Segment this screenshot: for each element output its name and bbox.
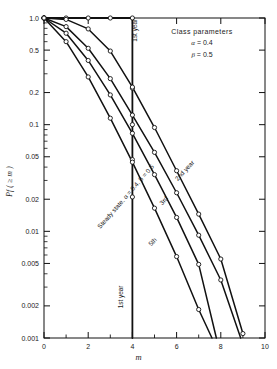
x-tick-label: 10 xyxy=(261,343,269,350)
data-point-marker xyxy=(108,49,112,53)
data-point-marker xyxy=(64,40,68,44)
data-point-marker xyxy=(108,16,112,20)
y-tick-label: 0.1 xyxy=(29,121,39,128)
data-point-marker xyxy=(175,191,179,195)
data-point-marker xyxy=(219,278,223,282)
y-tick-label: 0.02 xyxy=(25,196,39,203)
label-5th: 5th xyxy=(147,236,158,248)
data-point-marker xyxy=(42,16,46,20)
plot-frame xyxy=(44,18,265,338)
data-point-marker xyxy=(108,77,112,81)
y-tick-label: 0.005 xyxy=(21,260,39,267)
x-tick-label: 4 xyxy=(130,343,134,350)
data-point-marker xyxy=(152,125,156,129)
data-point-marker xyxy=(175,215,179,219)
data-point-marker xyxy=(152,150,156,154)
legend-alpha-row: α = 0.4 xyxy=(150,37,270,49)
data-point-marker xyxy=(197,212,201,216)
x-tick-label: 6 xyxy=(175,343,179,350)
alpha-symbol: α xyxy=(191,39,195,47)
data-point-marker xyxy=(130,195,134,199)
x-tick-label: 8 xyxy=(219,343,223,350)
data-point-marker xyxy=(130,131,134,135)
data-point-marker xyxy=(86,75,90,79)
y-tick-label: 0.001 xyxy=(21,335,39,342)
y-axis-title-box: Pf ( ≥ m ) xyxy=(2,150,16,220)
legend-class-parameters: Class parameters α = 0.4 β = 0.5 xyxy=(150,26,270,61)
label-3rd: 3rd xyxy=(158,194,170,206)
y-tick-label: 0.2 xyxy=(29,89,39,96)
legend-title: Class parameters xyxy=(150,26,270,37)
data-point-marker xyxy=(86,27,90,31)
alpha-value: = 0.4 xyxy=(197,39,213,46)
series-line xyxy=(44,18,212,338)
x-axis-title: m xyxy=(0,352,277,362)
data-point-marker xyxy=(108,93,112,97)
beta-value: = 0.5 xyxy=(197,51,213,58)
data-point-marker xyxy=(64,25,68,29)
data-point-marker xyxy=(130,123,134,127)
data-point-marker xyxy=(86,46,90,50)
data-point-marker xyxy=(108,116,112,120)
data-point-marker xyxy=(241,331,245,335)
data-point-marker xyxy=(130,160,134,164)
y-tick-label: 0.01 xyxy=(25,228,39,235)
data-point-marker xyxy=(175,254,179,258)
x-tick-label: 2 xyxy=(86,343,90,350)
tick-labels-layer: 1.00.50.20.10.050.020.010.0050.0020.0010… xyxy=(21,15,269,350)
data-point-marker xyxy=(64,31,68,35)
data-point-marker xyxy=(152,206,156,210)
data-point-marker xyxy=(130,85,134,89)
y-tick-label: 0.002 xyxy=(21,302,39,309)
data-point-marker xyxy=(64,17,68,21)
figure-container: 1st year1st year2nd year3rd5thSteady sta… xyxy=(0,0,277,369)
y-tick-label: 0.5 xyxy=(29,47,39,54)
curve-labels-layer: 1st year1st year2nd year3rd5thSteady sta… xyxy=(96,18,197,308)
y-axis-title: Pf ( ≥ m ) xyxy=(5,147,14,217)
x-tick-label: 0 xyxy=(42,343,46,350)
legend-beta-row: β = 0.5 xyxy=(150,49,270,61)
data-point-marker xyxy=(86,58,90,62)
data-point-marker xyxy=(197,307,201,311)
data-point-marker xyxy=(130,113,134,117)
data-point-marker xyxy=(152,173,156,177)
data-point-marker xyxy=(197,233,201,237)
data-point-marker xyxy=(197,262,201,266)
beta-symbol: β xyxy=(191,51,195,59)
axes-layer xyxy=(44,18,265,338)
y-tick-label: 0.05 xyxy=(25,153,39,160)
label-steady-state: Steady state, α = 0.4, β = 0.5 xyxy=(96,163,156,231)
data-point-marker xyxy=(219,257,223,261)
data-point-marker xyxy=(86,16,90,20)
label-1st-year-bottom: 1st year xyxy=(117,285,125,309)
y-tick-label: 1.0 xyxy=(29,15,39,22)
label-1st-year-top: 1st year xyxy=(131,18,139,42)
